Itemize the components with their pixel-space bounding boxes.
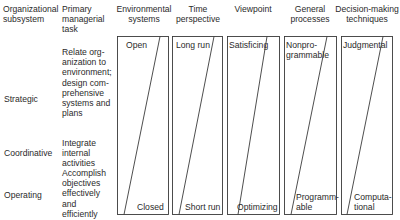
diagonal-general-processes (291, 37, 327, 215)
continuum-top-long-run: Long run (176, 40, 210, 50)
continuum-top-judgmental: Judgmental (343, 40, 387, 50)
box-general-processes (285, 37, 337, 215)
continuum-bottom-short-run: Short run (185, 202, 220, 212)
label-line: Computa- (354, 192, 392, 202)
continuum-top-open: Open (126, 40, 147, 50)
diagonal-environmental-systems (124, 37, 160, 215)
label-line: grammable (286, 50, 329, 60)
label-line: Programm- (296, 192, 339, 202)
continuum-top-satisficing: Satisficing (229, 40, 268, 50)
continuum-bottom-closed: Closed (137, 202, 164, 212)
continuum-diagram (0, 0, 400, 220)
diagonal-viewpoint (238, 37, 267, 215)
diagonal-time-perspective (179, 37, 214, 215)
continuum-top-nonprogrammable: Nonpro- grammable (286, 40, 329, 60)
label-line: tional (354, 202, 392, 212)
continuum-bottom-optimizing: Optimizing (237, 202, 278, 212)
label-line: able (296, 202, 339, 212)
continuum-bottom-programmable: Programm- able (296, 192, 339, 212)
label-line: Nonpro- (286, 40, 329, 50)
box-viewpoint (228, 37, 280, 215)
box-time-perspective (173, 37, 223, 215)
diagonal-decision-making-techniques (347, 37, 383, 215)
continuum-bottom-computational: Computa- tional (354, 192, 392, 212)
box-decision-making-techniques (342, 37, 393, 215)
box-environmental-systems (118, 37, 169, 215)
